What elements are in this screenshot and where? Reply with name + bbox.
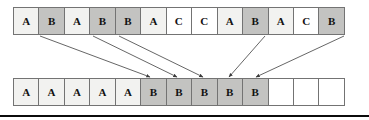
arrow-b4 bbox=[229, 36, 265, 77]
source-cell-label-0: A bbox=[22, 15, 30, 26]
destination-cell-label-6: B bbox=[175, 86, 183, 97]
destination-cell-label-3: A bbox=[99, 86, 107, 97]
source-cell-label-2: A bbox=[73, 15, 81, 26]
destination-cell-11[interactable] bbox=[293, 78, 319, 106]
destination-cell-10[interactable] bbox=[268, 78, 294, 106]
mapping-arrows bbox=[40, 36, 344, 77]
destination-cell-label-4: A bbox=[124, 86, 132, 97]
arrow-b2 bbox=[93, 36, 177, 77]
source-cell-label-9: B bbox=[252, 15, 260, 26]
destination-cell-12[interactable] bbox=[318, 78, 344, 106]
destination-cell-label-2: A bbox=[73, 86, 81, 97]
source-cell-label-4: B bbox=[124, 15, 132, 26]
source-cell-5[interactable]: A bbox=[140, 7, 166, 35]
source-cell-label-1: B bbox=[48, 15, 56, 26]
source-cell-8[interactable]: A bbox=[217, 7, 243, 35]
source-cell-2[interactable]: A bbox=[64, 7, 90, 35]
bottom-rule bbox=[0, 115, 369, 117]
arrow-b1 bbox=[40, 36, 150, 77]
source-cell-6[interactable]: C bbox=[166, 7, 192, 35]
destination-cell-label-0: A bbox=[22, 86, 30, 97]
source-cell-10[interactable]: A bbox=[268, 7, 294, 35]
destination-cell-label-7: B bbox=[201, 86, 209, 97]
destination-cell-label-1: A bbox=[48, 86, 56, 97]
destination-cell-5[interactable]: B bbox=[140, 78, 166, 106]
source-cell-12[interactable]: B bbox=[318, 7, 344, 35]
destination-cell-1[interactable]: A bbox=[38, 78, 64, 106]
source-cell-11[interactable]: C bbox=[293, 7, 319, 35]
source-array-row: ABABBACCABACB bbox=[13, 7, 344, 35]
source-cell-label-7: C bbox=[200, 15, 208, 26]
destination-cell-label-8: B bbox=[226, 86, 234, 97]
source-cell-7[interactable]: C bbox=[191, 7, 217, 35]
destination-cell-4[interactable]: A bbox=[115, 78, 141, 106]
destination-cell-6[interactable]: B bbox=[166, 78, 192, 106]
source-cell-0[interactable]: A bbox=[13, 7, 39, 35]
source-cell-label-3: B bbox=[99, 15, 107, 26]
destination-array-row: AAAAABBBBB bbox=[13, 78, 344, 106]
arrow-b5 bbox=[256, 36, 344, 77]
destination-cell-label-5: B bbox=[150, 86, 158, 97]
diagram-canvas: ABABBACCABACB AAAAABBBBB bbox=[0, 0, 369, 120]
destination-cell-7[interactable]: B bbox=[191, 78, 217, 106]
destination-cell-3[interactable]: A bbox=[89, 78, 115, 106]
source-cell-label-6: C bbox=[175, 15, 183, 26]
source-cell-9[interactable]: B bbox=[242, 7, 268, 35]
source-cell-label-5: A bbox=[149, 15, 157, 26]
source-cell-1[interactable]: B bbox=[38, 7, 64, 35]
source-cell-3[interactable]: B bbox=[89, 7, 115, 35]
destination-cell-8[interactable]: B bbox=[217, 78, 243, 106]
destination-cell-2[interactable]: A bbox=[64, 78, 90, 106]
destination-cell-0[interactable]: A bbox=[13, 78, 39, 106]
source-cell-label-11: C bbox=[302, 15, 310, 26]
source-cell-4[interactable]: B bbox=[115, 7, 141, 35]
destination-cell-9[interactable]: B bbox=[242, 78, 268, 106]
source-cell-label-8: A bbox=[226, 15, 234, 26]
arrow-b3 bbox=[119, 36, 203, 77]
destination-cell-label-9: B bbox=[252, 86, 260, 97]
source-cell-label-12: B bbox=[328, 15, 336, 26]
source-cell-label-10: A bbox=[277, 15, 285, 26]
